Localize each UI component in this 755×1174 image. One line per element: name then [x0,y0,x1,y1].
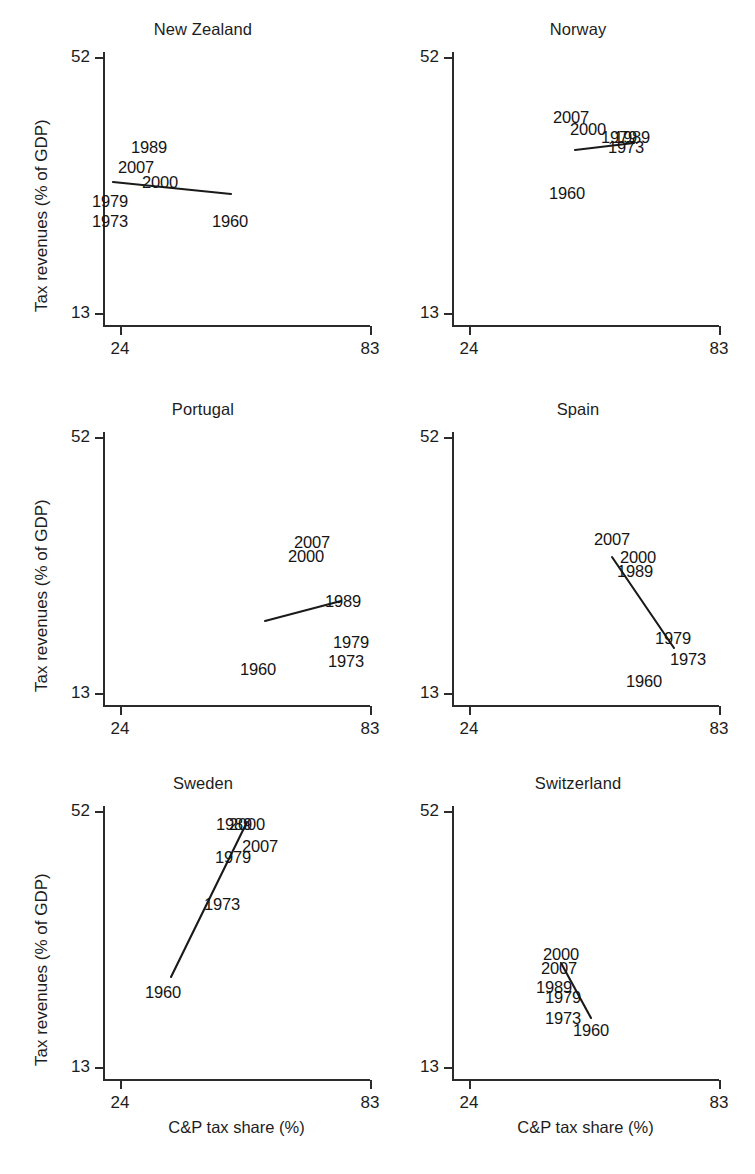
page-caption-cropped [0,1160,300,1174]
data-label-ch-1960: 1960 [573,1021,609,1040]
data-label-ch-2007: 2007 [541,959,577,978]
x-axis-title-col2: C&P tax share (%) [452,1118,719,1137]
trend-line-ch [0,0,755,1174]
data-label-ch-1979: 1979 [545,988,581,1007]
figure-root: New Zealand Tax revenues (% of GDP) 52 1… [0,0,755,1174]
